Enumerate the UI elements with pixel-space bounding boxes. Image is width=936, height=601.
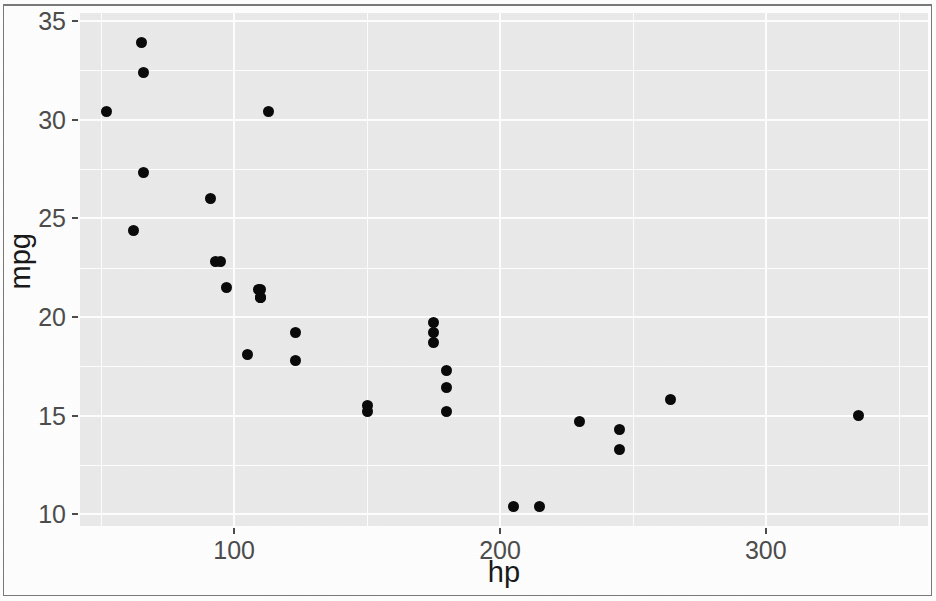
data-point — [508, 501, 519, 512]
data-point — [534, 501, 545, 512]
data-point — [101, 106, 112, 117]
gridline-major-y — [80, 217, 928, 219]
gridline-minor-y — [80, 366, 928, 367]
x-tick-mark — [233, 528, 235, 534]
x-tick-label: 300 — [745, 538, 787, 563]
y-tick-mark — [72, 119, 78, 121]
y-tick-mark — [72, 217, 78, 219]
data-point — [441, 382, 452, 393]
y-tick-label: 30 — [38, 107, 66, 132]
y-tick-mark — [72, 316, 78, 318]
data-point — [263, 106, 274, 117]
data-point — [290, 355, 301, 366]
data-point — [138, 67, 149, 78]
gridline-minor-y — [80, 169, 928, 170]
data-point — [574, 416, 585, 427]
gridline-minor-x — [367, 13, 368, 526]
plot-area: 100200300 101520253035 hp mpg — [0, 0, 936, 601]
gridline-minor-x — [633, 13, 634, 526]
gridline-major-y — [80, 316, 928, 318]
data-point — [614, 424, 625, 435]
data-point — [221, 282, 232, 293]
data-point — [205, 193, 216, 204]
gridline-major-y — [80, 513, 928, 515]
gridline-minor-x — [899, 13, 900, 526]
y-axis-title: mpg — [6, 249, 35, 289]
data-point — [665, 394, 676, 405]
gridline-minor-x — [101, 13, 102, 526]
x-tick-label: 100 — [213, 538, 255, 563]
data-point — [242, 349, 253, 360]
y-tick-mark — [72, 415, 78, 417]
y-tick-label: 35 — [38, 8, 66, 33]
x-tick-mark — [499, 528, 501, 534]
gridline-minor-y — [80, 465, 928, 466]
data-point — [362, 406, 373, 417]
y-tick-label: 10 — [38, 502, 66, 527]
plot-panel — [80, 13, 928, 526]
y-tick-mark — [72, 20, 78, 22]
y-tick-label: 20 — [38, 304, 66, 329]
data-point — [128, 225, 139, 236]
gridline-minor-y — [80, 70, 928, 71]
x-axis-title: hp — [488, 558, 520, 587]
y-tick-mark — [72, 513, 78, 515]
data-point — [290, 327, 301, 338]
data-point — [614, 444, 625, 455]
gridline-major-x — [499, 13, 501, 526]
gridline-major-y — [80, 119, 928, 121]
gridline-minor-y — [80, 268, 928, 269]
data-point — [428, 327, 439, 338]
data-point — [428, 337, 439, 348]
gridline-major-y — [80, 415, 928, 417]
x-tick-mark — [765, 528, 767, 534]
gridline-major-x — [233, 13, 235, 526]
data-point — [853, 410, 864, 421]
y-tick-label: 25 — [38, 206, 66, 231]
data-point — [428, 317, 439, 328]
gridline-major-y — [80, 20, 928, 22]
chart-figure: 100200300 101520253035 hp mpg — [0, 0, 936, 601]
data-point — [136, 37, 147, 48]
y-tick-label: 15 — [38, 403, 66, 428]
data-point — [138, 167, 149, 178]
gridline-major-x — [765, 13, 767, 526]
data-point — [215, 256, 226, 267]
data-point — [253, 284, 264, 295]
data-point — [441, 365, 452, 376]
